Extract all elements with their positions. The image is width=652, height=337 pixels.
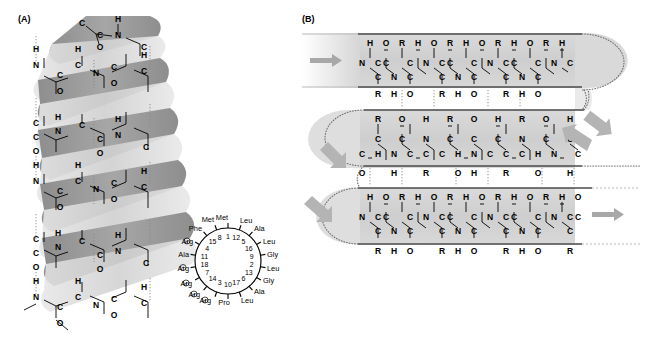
svg-text:H: H [75, 44, 81, 54]
svg-text:2: 2 [250, 261, 254, 268]
svg-text:C: C [375, 226, 381, 236]
svg-text:13: 13 [245, 269, 253, 276]
svg-text:H: H [519, 89, 525, 99]
svg-text:C: C [567, 212, 573, 222]
svg-text:N: N [391, 226, 397, 236]
svg-text:C: C [407, 212, 413, 222]
svg-text:R: R [447, 114, 453, 124]
svg-text:C: C [407, 149, 413, 159]
svg-text:C: C [439, 58, 445, 68]
svg-text:C: C [375, 72, 381, 82]
arrow-right-turn1 [582, 108, 611, 137]
svg-text:R: R [495, 38, 501, 48]
svg-text:H: H [535, 149, 541, 159]
svg-text:H: H [375, 149, 381, 159]
svg-text:O: O [471, 246, 478, 256]
svg-text:H: H [455, 246, 461, 256]
svg-text:Ala: Ala [254, 224, 266, 233]
svg-text:N: N [115, 30, 121, 40]
svg-text:C: C [33, 248, 39, 258]
svg-text:H: H [463, 192, 469, 202]
svg-text:O: O [431, 38, 438, 48]
svg-text:R: R [503, 168, 509, 178]
svg-text:O: O [57, 318, 64, 328]
svg-text:N: N [423, 134, 429, 144]
svg-text:N: N [423, 58, 429, 68]
svg-text:1: 1 [226, 233, 230, 240]
svg-text:C: C [447, 134, 453, 144]
svg-text:O: O [57, 202, 64, 212]
svg-text:C: C [575, 149, 581, 159]
svg-text:O: O [399, 114, 406, 124]
svg-text:N: N [33, 176, 39, 186]
svg-text:C: C [471, 72, 477, 82]
svg-text:O: O [535, 168, 542, 178]
svg-text:H: H [511, 192, 517, 202]
svg-text:C: C [111, 62, 117, 72]
svg-text:H: H [567, 114, 573, 124]
svg-text:O: O [471, 89, 478, 99]
svg-text:H: H [495, 114, 501, 124]
svg-text:H: H [141, 166, 147, 176]
svg-text:R: R [439, 89, 445, 99]
svg-text:H: H [391, 168, 397, 178]
svg-text:O: O [455, 168, 462, 178]
svg-text:8: 8 [218, 234, 222, 241]
svg-text:N: N [471, 149, 477, 159]
svg-text:14: 14 [209, 275, 217, 282]
svg-text:+: + [185, 281, 188, 286]
svg-text:C: C [407, 72, 413, 82]
svg-text:N: N [487, 58, 493, 68]
svg-text:C: C [471, 58, 477, 68]
svg-text:H: H [511, 38, 517, 48]
svg-text:C: C [535, 58, 541, 68]
svg-text:R: R [503, 246, 509, 256]
svg-text:O: O [383, 38, 390, 48]
svg-text:Leu: Leu [267, 264, 279, 273]
svg-text:O: O [535, 89, 542, 99]
svg-text:C: C [535, 72, 541, 82]
svg-text:C: C [97, 134, 103, 144]
svg-text:C: C [503, 226, 509, 236]
svg-text:C: C [75, 60, 81, 70]
svg-text:C: C [567, 58, 573, 68]
svg-text:6: 6 [241, 275, 245, 282]
svg-text:C: C [375, 134, 381, 144]
svg-text:C: C [423, 149, 429, 159]
svg-text:C: C [57, 70, 63, 80]
svg-text:Gly: Gly [267, 250, 278, 259]
svg-text:C: C [511, 212, 517, 222]
svg-text:Gly: Gly [263, 276, 274, 285]
svg-text:R: R [375, 246, 381, 256]
svg-text:O: O [527, 192, 534, 202]
panel-a-label: (A) [18, 14, 31, 24]
svg-text:H: H [391, 246, 397, 256]
svg-text:R: R [375, 114, 381, 124]
svg-text:R: R [399, 38, 405, 48]
svg-text:H: H [75, 160, 81, 170]
svg-text:N: N [455, 72, 461, 82]
svg-text:R: R [447, 192, 453, 202]
svg-text:C: C [383, 58, 389, 68]
svg-text:H: H [559, 192, 565, 202]
svg-text:R: R [375, 89, 381, 99]
svg-text:C: C [439, 226, 445, 236]
svg-text:N: N [423, 212, 429, 222]
svg-text:H: H [455, 149, 461, 159]
svg-text:O: O [431, 192, 438, 202]
svg-text:C: C [33, 234, 39, 244]
svg-text:O: O [471, 114, 478, 124]
svg-text:+: + [182, 265, 185, 270]
panel-b: (B) [292, 0, 652, 337]
svg-text:C: C [97, 30, 103, 40]
svg-text:C: C [471, 226, 477, 236]
svg-text:C: C [375, 58, 381, 68]
svg-text:C: C [543, 134, 549, 144]
svg-text:C: C [511, 58, 517, 68]
svg-text:Met: Met [202, 215, 214, 224]
svg-text:N: N [115, 130, 121, 140]
svg-text:R: R [447, 38, 453, 48]
svg-text:N: N [93, 300, 99, 310]
svg-text:C: C [359, 149, 365, 159]
svg-text:H: H [141, 50, 147, 60]
